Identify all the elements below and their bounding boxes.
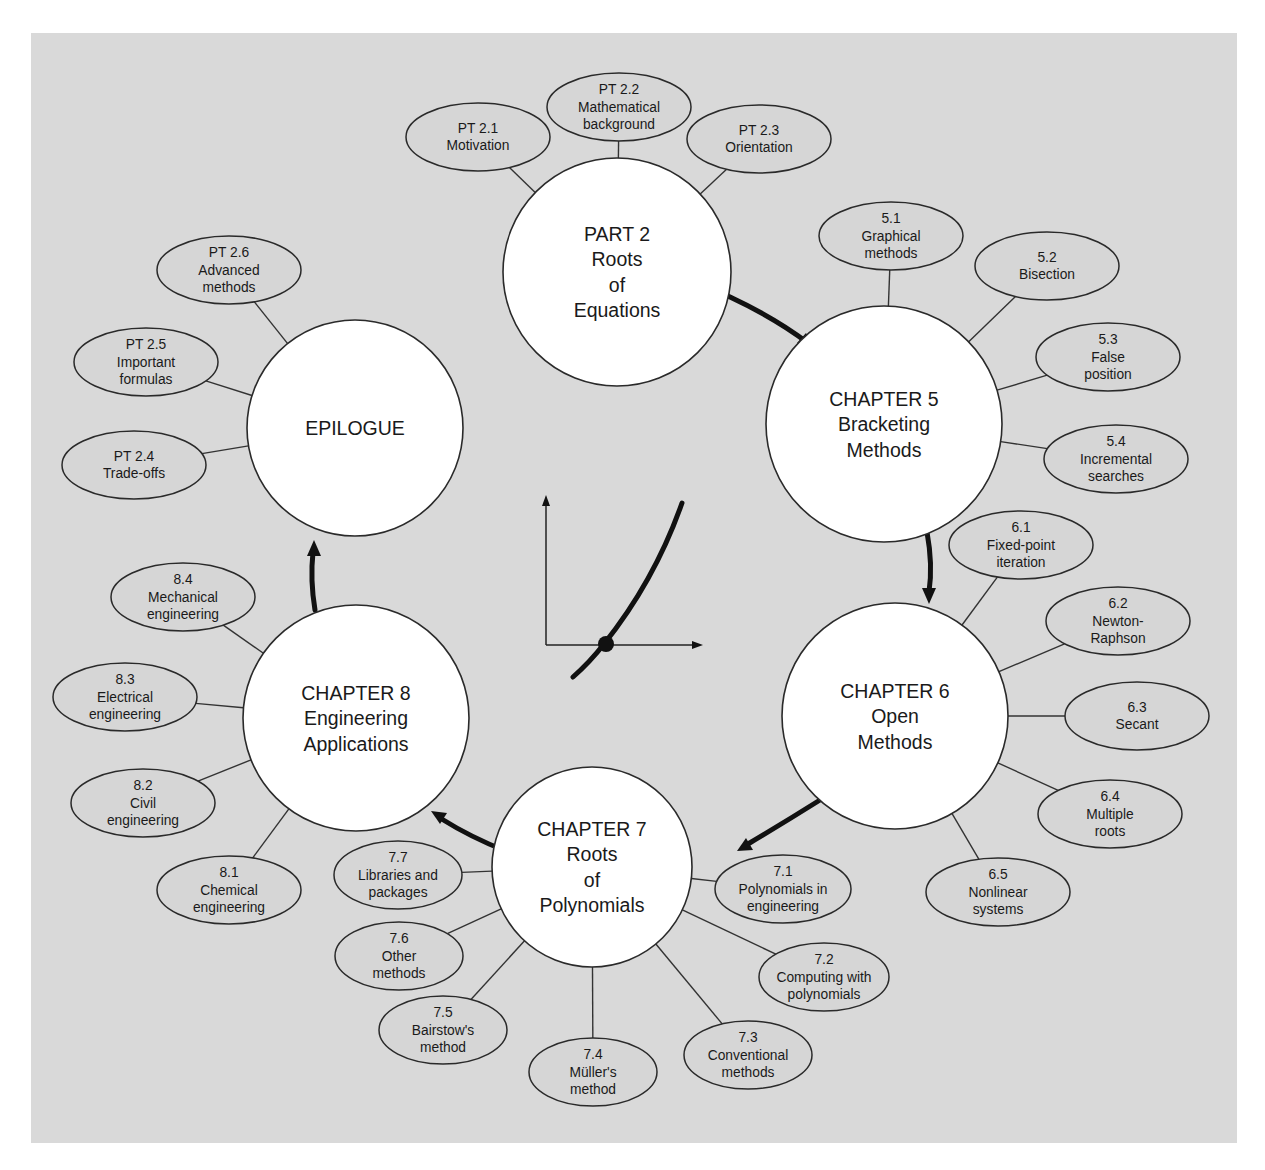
node-label-line: Newton- <box>1092 614 1143 629</box>
node-label-line: Advanced <box>198 263 259 278</box>
node-label-line: False <box>1091 350 1125 365</box>
section-node-6.5: 6.5Nonlinearsystems <box>926 858 1070 926</box>
node-label-line: engineering <box>193 900 265 915</box>
node-label-line: Conventional <box>708 1048 789 1063</box>
node-label-line: Polynomials <box>539 894 644 916</box>
connector-line <box>700 169 726 194</box>
section-node-pt-2.1: PT 2.1Motivation <box>406 103 550 171</box>
section-node-6.1: 6.1Fixed-pointiteration <box>949 511 1093 579</box>
section-node-6.3: 6.3Secant <box>1065 682 1209 750</box>
flow-arrow-ch8-to-epilogue <box>312 552 315 610</box>
connector-line <box>969 297 1016 342</box>
node-label-line: 5.4 <box>1106 434 1126 449</box>
node-label-line: Mechanical <box>148 590 218 605</box>
section-node-5.3: 5.3Falseposition <box>1036 323 1180 391</box>
node-label-line: Engineering <box>304 707 408 729</box>
node-label-line: 8.4 <box>173 572 193 587</box>
section-node-pt-2.2: PT 2.2Mathematicalbackground <box>547 73 691 141</box>
node-label-line: methods <box>865 246 918 261</box>
section-node-5.1: 5.1Graphicalmethods <box>819 202 963 270</box>
node-label-line: Secant <box>1116 717 1159 732</box>
node-label-line: 6.1 <box>1011 520 1030 535</box>
node-label-line: 5.1 <box>881 211 900 226</box>
node-label-line: 7.1 <box>773 864 792 879</box>
node-label-line: 7.4 <box>583 1047 603 1062</box>
node-label-line: 8.2 <box>133 778 152 793</box>
section-node-7.1: 7.1Polynomials inengineering <box>715 855 851 923</box>
node-label-line: PT 2.2 <box>599 82 639 97</box>
node-label-line: searches <box>1088 469 1144 484</box>
section-node-8.4: 8.4Mechanicalengineering <box>111 563 255 631</box>
root-plot-icon <box>542 495 703 677</box>
node-label-line: roots <box>1095 824 1126 839</box>
function-curve <box>573 503 682 677</box>
node-label-line: formulas <box>120 372 173 387</box>
section-ellipse <box>687 105 831 173</box>
node-label-line: CHAPTER 8 <box>301 682 410 704</box>
connector-line <box>656 944 722 1024</box>
section-node-8.2: 8.2Civilengineering <box>71 769 215 837</box>
connector-line <box>962 577 997 625</box>
node-label-line: engineering <box>747 899 819 914</box>
node-label-line: polynomials <box>788 987 861 1002</box>
section-node-7.2: 7.2Computing withpolynomials <box>759 943 889 1011</box>
chapter-node-ch8: CHAPTER 8EngineeringApplications <box>243 605 469 831</box>
node-label-line: of <box>609 274 626 296</box>
node-label-line: Applications <box>303 733 408 755</box>
section-node-pt-2.5: PT 2.5Importantformulas <box>74 328 218 396</box>
node-label-line: Nonlinear <box>968 885 1027 900</box>
connector-line <box>997 375 1047 390</box>
x-axis-arrow-icon <box>692 641 703 649</box>
node-label-line: Libraries and <box>358 868 438 883</box>
connector-line <box>998 763 1058 791</box>
section-ellipse <box>406 103 550 171</box>
chapter-node-part2: PART 2RootsofEquations <box>503 158 731 386</box>
node-label-line: EPILOGUE <box>305 417 405 439</box>
node-label-line: PT 2.5 <box>126 337 167 352</box>
section-node-7.7: 7.7Libraries andpackages <box>334 841 462 909</box>
node-label-line: 7.2 <box>814 952 833 967</box>
node-label-line: Motivation <box>447 138 510 153</box>
node-label-line: 6.3 <box>1127 700 1147 715</box>
chapter-node-ch6: CHAPTER 6OpenMethods <box>782 603 1008 829</box>
node-label-line: PT 2.4 <box>114 449 155 464</box>
node-label-line: Incremental <box>1080 452 1152 467</box>
connector-line <box>202 446 249 454</box>
connector-line <box>999 644 1065 672</box>
chapter-node-ch7: CHAPTER 7RootsofPolynomials <box>492 767 692 967</box>
node-label-line: PART 2 <box>584 223 650 245</box>
node-label-line: PT 2.6 <box>209 245 250 260</box>
connector-line <box>447 909 501 934</box>
node-label-line: PT 2.1 <box>458 121 498 136</box>
section-node-pt-2.4: PT 2.4Trade-offs <box>62 431 206 499</box>
node-label-line: Roots <box>592 248 643 270</box>
chapter-circle <box>503 158 731 386</box>
section-node-5.2: 5.2Bisection <box>975 232 1119 300</box>
node-label-line: methods <box>203 280 256 295</box>
node-label-line: Important <box>117 355 175 370</box>
node-label-line: engineering <box>107 813 179 828</box>
flow-arrow-ch5-to-ch6 <box>927 532 931 592</box>
node-label-line: 6.4 <box>1100 789 1120 804</box>
node-label-line: 7.5 <box>433 1005 453 1020</box>
section-node-pt-2.6: PT 2.6Advancedmethods <box>157 236 301 304</box>
node-label-line: position <box>1084 367 1132 382</box>
node-label-line: Graphical <box>861 229 920 244</box>
node-label-line: Civil <box>130 796 156 811</box>
arrow-head-icon <box>922 588 936 604</box>
connector-line <box>198 760 251 781</box>
arrow-head-icon <box>307 540 321 556</box>
node-label-line: 7.3 <box>738 1030 758 1045</box>
node-label-line: Orientation <box>725 140 793 155</box>
node-label-line: Other <box>382 949 417 964</box>
node-label-line: Raphson <box>1090 631 1145 646</box>
node-label-line: 7.6 <box>389 931 409 946</box>
node-label-line: CHAPTER 7 <box>537 818 646 840</box>
connector-line <box>509 168 535 193</box>
section-node-6.2: 6.2Newton-Raphson <box>1046 587 1190 655</box>
node-label-line: Fixed-point <box>987 538 1055 553</box>
flow-arrow-ch6-to-ch7 <box>748 800 820 844</box>
node-label-line: Methods <box>858 731 933 753</box>
node-label-line: 6.5 <box>988 867 1008 882</box>
node-label-line: background <box>583 117 655 132</box>
